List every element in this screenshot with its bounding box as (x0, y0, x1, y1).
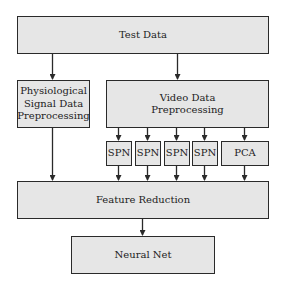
node-test-data: Test Data (17, 16, 269, 54)
node-spn-3: SPN (164, 141, 190, 166)
node-spn-3-label: SPN (166, 147, 188, 160)
node-spn-2-label: SPN (137, 147, 159, 160)
node-spn-1: SPN (106, 141, 132, 166)
video-line-2: Preprocessing (151, 104, 223, 115)
physio-line-3: Preprocessing (17, 110, 89, 121)
node-feature-reduction-label: Feature Reduction (96, 194, 190, 207)
physio-line-1: Physiological (20, 85, 87, 96)
video-line-1: Video Data (160, 92, 216, 103)
node-neural-net-label: Neural Net (115, 249, 172, 262)
node-spn-4: SPN (192, 141, 218, 166)
node-video-preprocessing: Video Data Preprocessing (106, 80, 269, 128)
node-neural-net: Neural Net (71, 236, 215, 274)
node-feature-reduction: Feature Reduction (17, 181, 269, 219)
node-pca-label: PCA (234, 147, 256, 160)
node-spn-1-label: SPN (108, 147, 130, 160)
node-pca: PCA (221, 141, 269, 166)
physio-line-2: Signal Data (24, 98, 83, 109)
node-test-data-label: Test Data (119, 29, 167, 42)
node-video-label: Video Data Preprocessing (151, 92, 223, 117)
node-physiological-label: Physiological Signal Data Preprocessing (17, 85, 89, 123)
node-spn-4-label: SPN (194, 147, 216, 160)
node-spn-2: SPN (135, 141, 161, 166)
node-physiological-preprocessing: Physiological Signal Data Preprocessing (17, 80, 90, 128)
